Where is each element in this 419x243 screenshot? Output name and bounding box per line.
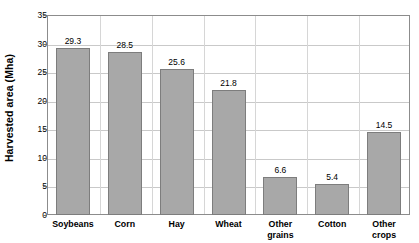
category-separator xyxy=(100,16,101,214)
category-separator xyxy=(152,16,153,214)
gridline xyxy=(48,159,409,160)
x-tick-label: Other grains xyxy=(254,219,306,240)
y-axis-title: Harvested area (Mha) xyxy=(0,0,18,215)
gridline xyxy=(48,45,409,46)
gridline xyxy=(48,102,409,103)
x-tick-label: Wheat xyxy=(203,219,255,230)
x-tick-label: Hay xyxy=(151,219,203,230)
x-tick-label: Soybeans xyxy=(47,219,99,230)
x-tick-label: Corn xyxy=(99,219,151,230)
plot-area xyxy=(47,15,410,215)
category-separator xyxy=(255,16,256,214)
category-separator xyxy=(204,16,205,214)
category-separator xyxy=(359,16,360,214)
x-tick-label: Cotton xyxy=(306,219,358,230)
gridline xyxy=(48,73,409,74)
gridline xyxy=(48,130,409,131)
y-axis-title-text: Harvested area (Mha) xyxy=(3,53,15,161)
bar-chart-figure: Harvested area (Mha) 05101520253035 29.3… xyxy=(0,0,419,243)
category-separator xyxy=(307,16,308,214)
y-tick-mark xyxy=(43,215,47,216)
y-axis: 05101520253035 xyxy=(18,15,47,215)
x-tick-label: Other crops xyxy=(358,219,410,240)
x-axis-labels: SoybeansCornHayWheatOther grainsCottonOt… xyxy=(47,219,410,243)
gridline xyxy=(48,187,409,188)
